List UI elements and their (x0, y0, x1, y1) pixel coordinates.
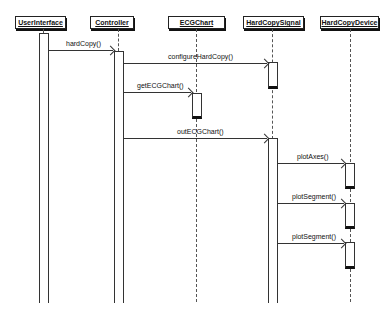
message-label-plotsegment-1: plotSegment() (292, 193, 336, 200)
lifeline-controller (118, 29, 119, 51)
sequence-diagram: UserInterface Controller ECGChart HardCo… (0, 0, 390, 312)
participant-hardcopydevice: HardCopyDevice (320, 16, 379, 29)
participant-hardcopysignal: HardCopySignal (243, 16, 304, 29)
lifeline-ecgchart (196, 29, 197, 302)
message-arrow-plotsegment-2 (278, 243, 344, 244)
message-arrow-hardcopy (49, 50, 113, 51)
participant-userinterface: UserInterface (15, 16, 66, 29)
message-arrow-outecgchart (124, 138, 267, 139)
message-arrow-getecgchart (124, 92, 191, 93)
participant-ecgchart: ECGChart (168, 16, 225, 29)
message-arrow-configurehardcopy (124, 63, 267, 64)
activation-controller (114, 51, 124, 303)
activation-hardcopydevice-3 (345, 242, 355, 269)
message-arrow-plotsegment-1 (278, 203, 344, 204)
message-label-plotaxes: plotAxes() (297, 153, 329, 160)
participant-controller: Controller (90, 16, 134, 29)
message-label-configurehardcopy: configureHardCopy() (168, 53, 233, 60)
activation-ecgchart (192, 93, 202, 119)
message-label-getecgchart: getECGChart() (137, 82, 184, 89)
message-label-hardcopy: hardCopy() (66, 40, 101, 47)
message-label-outecgchart: outECGChart() (177, 128, 224, 135)
activation-hardcopydevice-1 (345, 163, 355, 189)
message-label-plotsegment-2: plotSegment() (292, 233, 336, 240)
activation-hardcopysignal-1 (268, 62, 278, 89)
message-arrow-plotaxes (278, 163, 344, 164)
activation-userinterface (39, 33, 49, 303)
activation-hardcopydevice-2 (345, 203, 355, 229)
activation-hardcopysignal-2 (268, 138, 278, 303)
